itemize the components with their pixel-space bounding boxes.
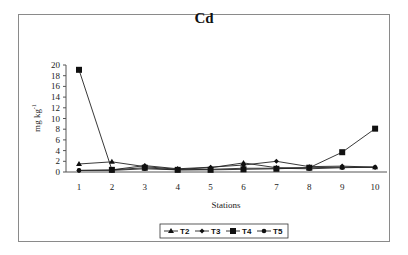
- x-tick-label: 6: [241, 182, 246, 192]
- circle-marker-icon: [77, 168, 82, 173]
- circle-marker-icon: [175, 168, 180, 173]
- circle-marker-icon: [307, 166, 312, 171]
- legend-label: T2: [180, 227, 190, 236]
- x-tick-label: 8: [307, 182, 312, 192]
- legend-label: T5: [273, 227, 283, 236]
- circle-marker-icon: [274, 166, 279, 171]
- y-tick-label: 6: [56, 135, 61, 145]
- diamond-marker-icon: [274, 159, 279, 164]
- legend-label: T3: [211, 227, 221, 236]
- y-tick-label: 14: [51, 92, 61, 102]
- circle-marker-icon: [110, 168, 115, 173]
- x-tick-label: 3: [143, 182, 148, 192]
- x-tick-label: 9: [340, 182, 345, 192]
- x-tick-label: 4: [175, 182, 180, 192]
- x-axis-label: Stations: [211, 200, 241, 210]
- square-marker-icon: [76, 67, 82, 73]
- x-tick-label: 2: [110, 182, 115, 192]
- y-tick-label: 0: [56, 167, 61, 177]
- y-axis-label: mg kg-1: [31, 104, 42, 132]
- y-tick-label: 12: [51, 103, 60, 113]
- x-tick-label: 1: [77, 182, 82, 192]
- y-tick-label: 20: [51, 60, 61, 70]
- legend-square-icon: [230, 228, 236, 234]
- y-tick-label: 4: [56, 146, 61, 156]
- circle-marker-icon: [208, 167, 213, 172]
- circle-marker-icon: [241, 166, 246, 171]
- x-tick-label: 10: [371, 182, 381, 192]
- y-tick-label: 10: [51, 114, 61, 124]
- y-tick-label: 2: [56, 156, 61, 166]
- square-marker-icon: [339, 149, 345, 155]
- y-tick-label: 8: [56, 124, 61, 134]
- x-tick-label: 5: [208, 182, 213, 192]
- circle-marker-icon: [373, 165, 378, 170]
- square-marker-icon: [372, 126, 378, 132]
- circle-marker-icon: [340, 165, 345, 170]
- x-tick-label: 7: [274, 182, 279, 192]
- plot-area: 0246810121416182012345678910Stationsmg k…: [0, 0, 408, 255]
- series-line-t4: [79, 70, 375, 170]
- circle-marker-icon: [143, 166, 148, 171]
- y-tick-label: 18: [51, 71, 61, 81]
- legend-label: T4: [242, 227, 252, 236]
- y-tick-label: 16: [51, 81, 61, 91]
- legend-circle-icon: [262, 229, 267, 234]
